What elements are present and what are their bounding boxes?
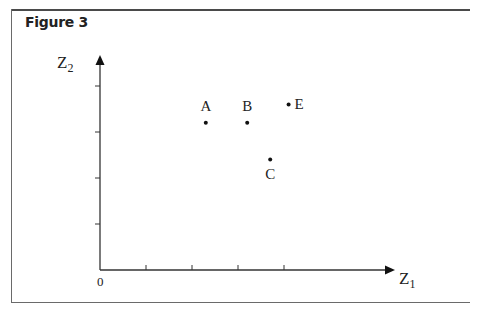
x-axis-label: Z1	[399, 269, 415, 291]
point-label-e: E	[295, 96, 304, 112]
data-points: ABCE	[200, 96, 303, 181]
point-label-a: A	[200, 98, 211, 114]
data-point-b	[245, 121, 249, 125]
data-point-c	[268, 158, 272, 162]
data-point-e	[287, 102, 291, 106]
point-label-c: C	[265, 166, 275, 182]
data-point-a	[204, 121, 208, 125]
origin-label: 0	[97, 274, 104, 289]
x-axis-arrow-icon	[385, 266, 395, 275]
axis-ticks	[95, 86, 284, 270]
scatter-plot: ABCE Z2 Z1 0	[0, 0, 480, 312]
y-axis-label: Z2	[57, 53, 73, 75]
point-label-b: B	[242, 98, 252, 114]
y-axis-arrow-icon	[96, 55, 105, 65]
